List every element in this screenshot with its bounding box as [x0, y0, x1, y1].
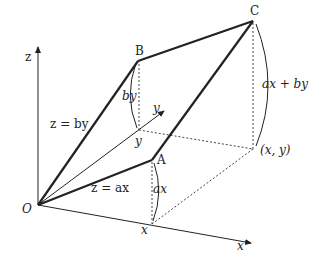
plane-by-label: z = by: [50, 117, 89, 131]
height-sum-label: ax + by: [262, 77, 308, 91]
point-b-label: B: [135, 44, 144, 58]
point-y-label: y: [134, 134, 142, 148]
z-axis-label: z: [25, 50, 31, 64]
point-c-label: C: [250, 4, 259, 18]
plane-ax-label: z = ax: [91, 181, 129, 195]
height-ax-label: ax: [153, 182, 167, 196]
point-a-label: A: [156, 153, 166, 167]
height-arcs: [130, 24, 268, 221]
3d-linear-function-diagram: O z x y B C A x y (x, y) by ax ax + by z…: [0, 0, 321, 270]
point-xy-label: (x, y): [260, 143, 291, 157]
plane-edges: [38, 21, 253, 205]
point-x-label: x: [141, 223, 148, 237]
origin-label: O: [22, 202, 32, 216]
height-by-label: by: [122, 89, 137, 103]
x-axis-label: x: [237, 239, 244, 253]
y-axis-label: y: [152, 101, 160, 115]
